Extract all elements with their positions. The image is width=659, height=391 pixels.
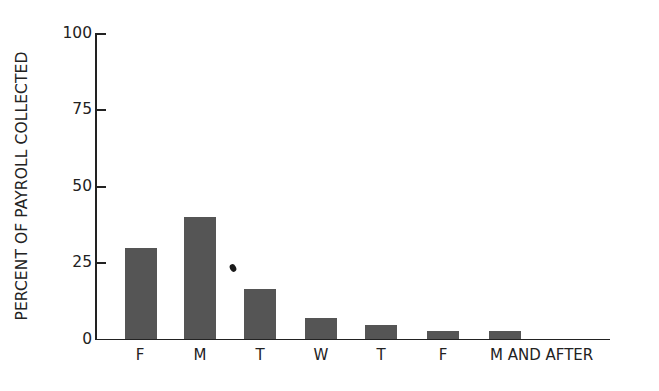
y-tick-50 [96, 186, 106, 188]
y-tick-100 [96, 33, 106, 35]
x-tick-label-t: T [255, 346, 264, 364]
y-axis-label: PERCENT OF PAYROLL COLLECTED [13, 51, 31, 320]
bar-m-1 [184, 217, 216, 339]
bar-m-and-after-6 [489, 331, 521, 339]
y-tick-label-0: 0 [52, 330, 92, 348]
x-tick-label-t2: T [376, 346, 385, 364]
y-tick-25 [96, 262, 106, 264]
bar-f-5 [427, 331, 459, 339]
bar-t-4 [365, 325, 397, 339]
y-tick-label-100: 100 [52, 24, 92, 42]
bar-chart: PERCENT OF PAYROLL COLLECTED 100 75 50 2… [0, 0, 659, 391]
x-tick-label-f: F [136, 346, 145, 364]
y-tick-label-50: 50 [52, 177, 92, 195]
bar-f-0 [125, 248, 157, 340]
y-tick-label-25: 25 [52, 253, 92, 271]
y-tick-label-75: 75 [52, 100, 92, 118]
x-axis-line [95, 339, 610, 341]
bar-t-2 [244, 289, 276, 339]
y-tick-75 [96, 109, 106, 111]
ink-speck [228, 263, 237, 273]
bar-w-3 [305, 318, 337, 339]
x-tick-label-m: M [194, 346, 207, 364]
x-tick-label-w: W [314, 346, 329, 364]
x-tick-label-m-and-after: M AND AFTER [490, 346, 593, 364]
x-tick-label-f2: F [439, 346, 448, 364]
